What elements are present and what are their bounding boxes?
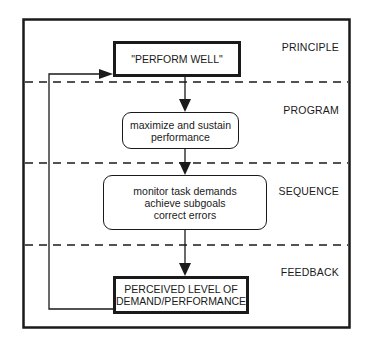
arrowhead-down-icon <box>179 99 191 112</box>
arrowhead-down-icon <box>179 263 191 276</box>
node-text: DEMAND/PERFORMANCE <box>116 295 246 307</box>
level-label-sequence: SEQUENCE <box>278 185 339 197</box>
arrowhead-right-icon <box>99 69 113 79</box>
level-label-feedback: FEEDBACK <box>281 266 339 278</box>
node-text: correct errors <box>154 209 216 221</box>
node-text: performance <box>151 131 210 143</box>
level-label-principle: PRINCIPLE <box>282 41 339 53</box>
level-label-program: PROGRAM <box>283 104 339 116</box>
node-perform-well: "PERFORM WELL" <box>113 41 241 77</box>
node-text: maximize and sustain <box>130 119 231 131</box>
node-maximize-performance: maximize and sustain performance <box>122 112 239 149</box>
node-text: achieve subgoals <box>144 197 225 209</box>
node-text: PERCEIVED LEVEL OF <box>124 283 237 295</box>
node-text: monitor task demands <box>133 185 236 197</box>
node-monitor-tasks: monitor task demands achieve subgoals co… <box>103 175 267 230</box>
arrowhead-down-icon <box>179 162 191 175</box>
node-perceived-level: PERCEIVED LEVEL OF DEMAND/PERFORMANCE <box>113 276 249 314</box>
node-text: "PERFORM WELL" <box>131 53 222 65</box>
diagram-canvas: "PERFORM WELL" maximize and sustain perf… <box>0 0 367 343</box>
